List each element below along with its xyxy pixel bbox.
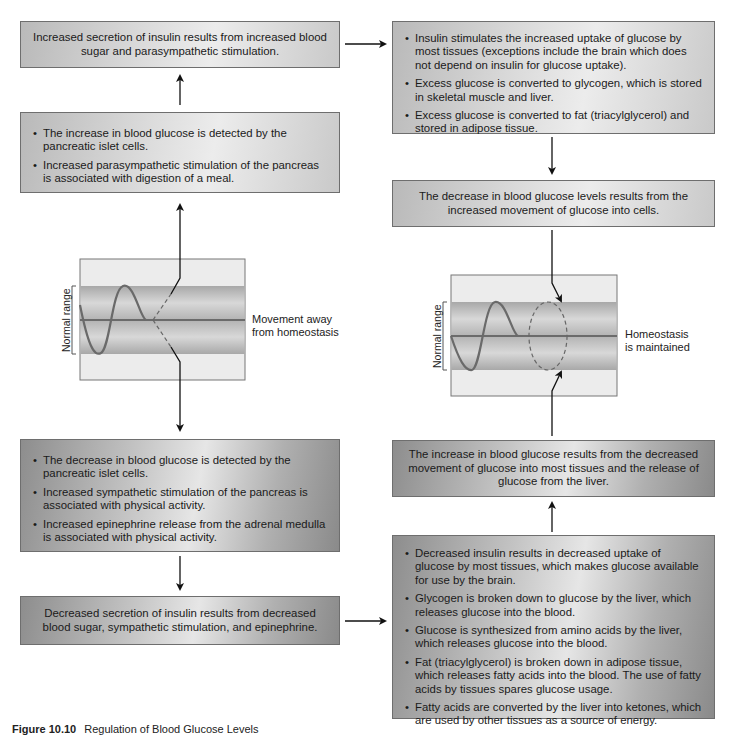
bullet-item: Glucose is synthesized from amino acids … <box>405 624 702 651</box>
box-text: The decrease in blood glucose levels res… <box>403 190 704 217</box>
bullet-list: The decrease in blood glucose is detecte… <box>33 454 327 544</box>
left-graph-side-label: Movement away from homeostasis <box>252 313 339 339</box>
bullet-item: The decrease in blood glucose is detecte… <box>33 454 327 481</box>
bullet-item: Excess glucose is converted to fat (tria… <box>405 109 702 136</box>
bullet-item: The increase in blood glucose is detecte… <box>33 127 327 154</box>
box-increase-detected: The increase in blood glucose is detecte… <box>20 112 340 193</box>
box-glucose-decrease-result: The decrease in blood glucose levels res… <box>392 180 715 227</box>
figure-caption: Figure 10.10Regulation of Blood Glucose … <box>12 723 258 735</box>
box-low-insulin-effects: Decreased insulin results in decreased u… <box>392 535 715 719</box>
bullet-list: The increase in blood glucose is detecte… <box>33 127 327 186</box>
box-insulin-secretion-increased: Increased secretion of insulin results f… <box>20 21 340 68</box>
right-graph-side-label-line2: is maintained <box>625 341 690 354</box>
right-graph-normal-range-label: Normal range <box>431 304 443 368</box>
box-glucose-increase-result: The increase in blood glucose results fr… <box>392 440 715 497</box>
bullet-list: Insulin stimulates the increased uptake … <box>405 32 702 136</box>
bullet-item: Fat (triacylglycerol) is broken down in … <box>405 656 702 696</box>
left-graph-side-label-line1: Movement away <box>252 313 339 326</box>
box-decrease-detected: The decrease in blood glucose is detecte… <box>20 439 340 552</box>
box-text: Decreased secretion of insulin results f… <box>31 607 329 634</box>
bullet-item: Decreased insulin results in decreased u… <box>405 547 702 587</box>
left-graph-normal-range-label: Normal range <box>60 288 72 352</box>
figure-title: Regulation of Blood Glucose Levels <box>84 723 258 735</box>
bullet-item: Fatty acids are converted by the liver i… <box>405 701 702 728</box>
bullet-item: Increased epinephrine release from the a… <box>33 518 327 545</box>
left-graph-side-label-line2: from homeostasis <box>252 326 339 339</box>
right-homeostasis-graph <box>443 275 617 396</box>
bullet-item: Increased sympathetic stimulation of the… <box>33 486 327 513</box>
bullet-list: Decreased insulin results in decreased u… <box>405 547 702 728</box>
box-text: The increase in blood glucose results fr… <box>403 448 704 488</box>
bullet-item: Excess glucose is converted to glycogen,… <box>405 77 702 104</box>
right-graph-side-label: Homeostasis is maintained <box>625 328 690 354</box>
figure-number: Figure 10.10 <box>12 723 76 735</box>
box-insulin-secretion-decreased: Decreased secretion of insulin results f… <box>20 596 340 645</box>
right-graph-side-label-line1: Homeostasis <box>625 328 690 341</box>
bullet-item: Increased parasympathetic stimulation of… <box>33 159 327 186</box>
box-text: Increased secretion of insulin results f… <box>31 31 329 58</box>
box-insulin-effects: Insulin stimulates the increased uptake … <box>392 21 715 134</box>
bullet-item: Insulin stimulates the increased uptake … <box>405 32 702 72</box>
left-homeostasis-graph <box>72 259 245 380</box>
bullet-item: Glycogen is broken down to glucose by th… <box>405 592 702 619</box>
